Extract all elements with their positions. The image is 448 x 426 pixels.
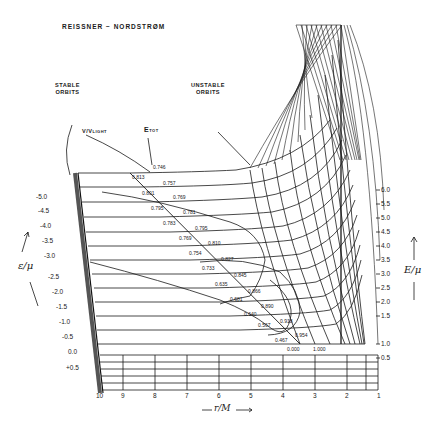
etot-label: ETOT [144, 126, 159, 134]
right-tick: 5.5 [381, 200, 390, 207]
bottom-tick: 9 [121, 392, 125, 399]
bottom-tick: 8 [153, 392, 157, 399]
velocity-arrow [86, 135, 150, 172]
right-tick: 2.5 [381, 284, 390, 291]
unstable-orbits-label: UNSTABLE ORBITS [191, 82, 225, 96]
etot-value: 0.810 [208, 240, 221, 246]
left-tick: -3.5 [42, 237, 53, 244]
velocity-value: 0.635 [215, 281, 228, 287]
right-tick: 0.5 [381, 354, 390, 361]
velocity-value: 0.795 [151, 205, 164, 211]
right-tick: 4.5 [381, 228, 390, 235]
velocity-label: V/VLIGHT [82, 128, 107, 135]
etot-value: 0.954 [295, 332, 308, 338]
left-tick: -5.0 [36, 193, 47, 200]
etot-arrow [148, 138, 152, 165]
bottom-tick: 6 [217, 392, 221, 399]
right-tick: 4.0 [381, 242, 390, 249]
etot-subscript: TOT [149, 128, 158, 133]
potential-surface-diagram [0, 0, 448, 426]
etot-value: 1.000 [313, 346, 326, 352]
stable-orbits-label: STABLE ORBITS [55, 82, 80, 96]
etot-value: 0.918 [280, 318, 293, 324]
right-tick: 5.0 [381, 214, 390, 221]
etot-value: 0.795 [195, 225, 208, 231]
bottom-tick: 5 [249, 392, 253, 399]
unstable-label-line1: UNSTABLE [191, 82, 225, 89]
right-tick: 3.5 [381, 256, 390, 263]
epsilon-lines [78, 120, 365, 344]
bottom-tick: 10 [96, 392, 103, 399]
diagonal-value-line [130, 173, 300, 344]
etot-value: 0.781 [183, 209, 196, 215]
right-tick: 6.0 [381, 186, 390, 193]
right-tick: 3.0 [381, 270, 390, 277]
etot-value: 0.866 [248, 288, 261, 294]
left-tick: -4.0 [40, 222, 51, 229]
left-tick: -0.5 [62, 333, 73, 340]
velocity-value: 0.783 [163, 220, 176, 226]
unstable-label-line2: ORBITS [191, 89, 225, 96]
bottom-tick: 3 [313, 392, 317, 399]
stable-orbits-arrow [66, 125, 72, 175]
etot-value: 0.769 [173, 194, 186, 200]
velocity-text: V/V [82, 128, 93, 134]
etot-value: 0.757 [163, 180, 176, 186]
velocity-value: 0.567 [258, 322, 271, 328]
bottom-tick: 7 [185, 392, 189, 399]
etot-value: 0.845 [234, 272, 247, 278]
figure-title: REISSNER − NORDSTRØM [62, 23, 165, 30]
left-tick: -2.5 [48, 273, 59, 280]
etot-value: 0.746 [153, 164, 166, 170]
velocity-value: 0.733 [202, 265, 215, 271]
left-tick: -3.0 [44, 252, 55, 259]
stable-label-line2: ORBITS [55, 89, 80, 96]
etot-value: 0.890 [261, 303, 274, 309]
velocity-value: 0.467 [275, 337, 288, 343]
bottom-tick: 4 [281, 392, 285, 399]
potential-spike-mesh [250, 25, 384, 344]
velocity-value: 0.681 [230, 296, 243, 302]
base-grid [100, 355, 378, 390]
right-tick: 1.5 [381, 312, 390, 319]
velocity-value: 0.000 [287, 346, 300, 352]
right-tick: 1.0 [381, 340, 390, 347]
bottom-tick: 2 [345, 392, 349, 399]
unstable-orbits-arrow [218, 132, 250, 165]
velocity-value: 0.769 [179, 235, 192, 241]
right-axis-label: E/μ [404, 264, 421, 275]
stable-label-line1: STABLE [55, 82, 80, 89]
velocity-value: 0.640 [244, 311, 257, 317]
left-tick: 0.0 [68, 348, 77, 355]
left-tick: -1.0 [59, 318, 70, 325]
velocity-value: 0.813 [132, 174, 145, 180]
velocity-value: 0.801 [142, 190, 155, 196]
left-edge [75, 173, 100, 393]
bottom-axis-label: r/M [214, 403, 231, 413]
left-tick: -1.5 [56, 303, 67, 310]
etot-value: 0.827 [221, 256, 234, 262]
left-tick: -4.5 [38, 207, 49, 214]
velocity-value: 0.754 [189, 250, 202, 256]
left-tick: -2.0 [52, 288, 63, 295]
left-axis-label: ε/μ [18, 260, 33, 271]
velocity-subscript: LIGHT [93, 129, 108, 134]
right-tick: 2.0 [381, 298, 390, 305]
left-tick: +0.5 [66, 364, 79, 371]
bottom-tick: 1 [377, 392, 381, 399]
